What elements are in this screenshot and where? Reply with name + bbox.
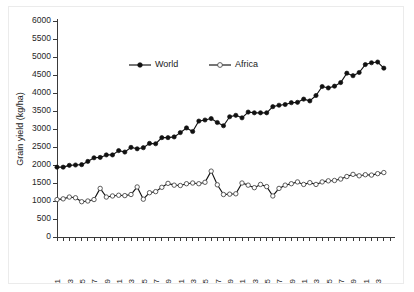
data-point-africa xyxy=(357,174,361,178)
data-point-world xyxy=(283,102,287,106)
y-tick-label: 1000 xyxy=(32,195,51,205)
data-point-world xyxy=(104,153,108,157)
data-point-africa xyxy=(110,194,114,198)
data-point-africa xyxy=(73,196,77,200)
data-point-africa xyxy=(345,174,349,178)
data-point-world xyxy=(252,111,256,115)
data-point-world xyxy=(351,74,355,78)
data-point-africa xyxy=(203,180,207,184)
data-point-world xyxy=(191,129,195,133)
y-axis-ticks xyxy=(53,21,57,237)
data-point-africa xyxy=(86,199,90,203)
data-point-africa xyxy=(234,192,238,196)
series-africa xyxy=(55,169,386,204)
data-point-world xyxy=(234,113,238,117)
data-point-world xyxy=(228,115,232,119)
data-point-world xyxy=(209,116,213,120)
data-point-world xyxy=(246,110,250,114)
data-point-world xyxy=(363,62,367,66)
x-tick-label: 2007 xyxy=(337,278,346,283)
chart-legend: WorldAfrica xyxy=(129,59,258,69)
data-point-world xyxy=(369,61,373,65)
data-point-africa xyxy=(92,197,96,201)
data-point-world xyxy=(339,80,343,84)
x-tick-label: 1995 xyxy=(263,278,272,283)
data-point-world xyxy=(80,163,84,167)
data-point-africa xyxy=(326,179,330,183)
y-tick-label: 6000 xyxy=(32,15,51,25)
data-series-layer xyxy=(55,60,386,204)
data-point-world xyxy=(326,86,330,90)
x-tick-label: 1967 xyxy=(90,278,99,283)
data-point-africa xyxy=(351,172,355,176)
data-point-africa xyxy=(246,183,250,187)
x-tick-label: 1989 xyxy=(226,278,235,283)
data-point-africa xyxy=(338,177,342,181)
y-tick-label: 5500 xyxy=(32,33,51,43)
data-point-africa xyxy=(98,186,102,190)
y-tick-label: 3500 xyxy=(32,105,51,115)
legend-marker-africa xyxy=(218,63,223,68)
data-point-world xyxy=(110,153,114,157)
data-point-world xyxy=(147,141,151,145)
x-tick-label: 1971 xyxy=(115,278,124,283)
data-point-world xyxy=(215,120,219,124)
data-point-world xyxy=(308,99,312,103)
data-point-africa xyxy=(363,173,367,177)
y-tick-label: 4500 xyxy=(32,69,51,79)
data-point-africa xyxy=(240,181,244,185)
x-tick-label: 1961 xyxy=(53,278,62,283)
legend-label-africa: Africa xyxy=(235,59,258,69)
data-point-world xyxy=(184,126,188,130)
data-point-world xyxy=(382,66,386,70)
x-tick-label: 1985 xyxy=(201,278,210,283)
data-point-africa xyxy=(308,180,312,184)
data-point-world xyxy=(135,147,139,151)
data-point-africa xyxy=(375,171,379,175)
x-tick-label: 1991 xyxy=(238,278,247,283)
y-axis-title: Grain yield (kg/ha) xyxy=(15,92,25,166)
data-point-africa xyxy=(147,191,151,195)
data-point-africa xyxy=(295,180,299,184)
data-point-africa xyxy=(166,181,170,185)
data-point-world xyxy=(197,119,201,123)
data-point-world xyxy=(61,165,65,169)
figure-frame: 0500100015002000250030003500400045005000… xyxy=(8,6,404,284)
x-tick-label: 2013 xyxy=(374,278,383,283)
data-point-africa xyxy=(264,184,268,188)
y-tick-label: 3000 xyxy=(32,123,51,133)
data-point-africa xyxy=(141,197,145,201)
data-point-africa xyxy=(172,183,176,187)
x-tick-label: 1965 xyxy=(78,278,87,283)
data-point-world xyxy=(277,103,281,107)
data-point-africa xyxy=(227,192,231,196)
y-tick-label: 2000 xyxy=(32,159,51,169)
data-point-africa xyxy=(178,183,182,187)
x-tick-label: 2011 xyxy=(362,278,371,283)
y-tick-label: 5000 xyxy=(32,51,51,61)
data-point-world xyxy=(67,163,71,167)
data-point-world xyxy=(240,116,244,120)
data-point-africa xyxy=(258,182,262,186)
data-point-africa xyxy=(104,195,108,199)
data-point-africa xyxy=(61,197,65,201)
data-point-world xyxy=(166,136,170,140)
data-point-africa xyxy=(123,193,127,197)
data-point-africa xyxy=(271,194,275,198)
legend-label-world: World xyxy=(155,59,178,69)
y-tick-label: 2500 xyxy=(32,141,51,151)
data-point-world xyxy=(141,146,145,150)
x-tick-label: 1977 xyxy=(152,278,161,283)
x-tick-label: 1979 xyxy=(164,278,173,283)
data-point-world xyxy=(271,105,275,109)
x-tick-label: 2001 xyxy=(300,278,309,283)
y-tick-label: 0 xyxy=(46,231,51,241)
data-point-africa xyxy=(184,182,188,186)
chart-figure: 0500100015002000250030003500400045005000… xyxy=(0,0,414,292)
data-point-world xyxy=(160,136,164,140)
x-tick-label: 1973 xyxy=(127,278,136,283)
data-point-africa xyxy=(129,192,133,196)
y-tick-label: 4000 xyxy=(32,87,51,97)
data-point-world xyxy=(314,93,318,97)
x-tick-label: 2005 xyxy=(325,278,334,283)
